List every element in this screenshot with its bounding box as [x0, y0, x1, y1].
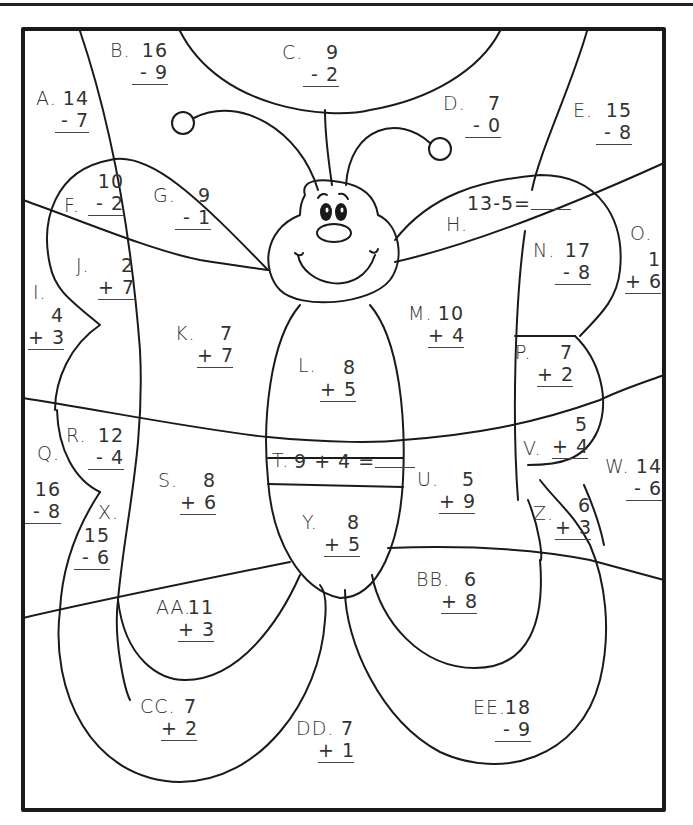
problem-R: 12 - 4: [88, 424, 124, 470]
problem-EE: 18 - 9: [495, 696, 531, 742]
problem-W: 14 - 6: [626, 455, 662, 501]
problem-X-label: X.: [98, 502, 119, 523]
butterfly-drawing: [0, 0, 693, 825]
problem-P: 7 + 2: [537, 341, 573, 387]
problem-P-label: P.: [515, 342, 532, 363]
problem-Y: 8 + 5: [324, 511, 360, 557]
problem-AA: 11 + 3: [178, 596, 214, 642]
problem-A-label: A.: [36, 88, 57, 109]
problem-E-label: E.: [573, 100, 593, 121]
problem-J-label: J.: [76, 255, 90, 276]
worksheet: A. 14 - 7 B. 16 - 9 C. 9 - 2 D. 7 - 0 E.…: [0, 0, 693, 825]
problem-V-label: V.: [523, 438, 542, 459]
problem-U: 5 + 9: [439, 468, 475, 514]
problem-G: 9 - 1: [175, 184, 211, 230]
problem-F: 10 - 2: [88, 170, 124, 216]
problem-E: 15 - 8: [596, 99, 632, 145]
problem-C-label: C.: [282, 42, 303, 63]
problem-U-label: U.: [417, 469, 439, 490]
problem-O-label: O.: [630, 223, 652, 244]
problem-F-label: F.: [64, 195, 80, 216]
problem-Q-label: Q.: [37, 443, 60, 464]
problem-Q: 16 - 8: [25, 478, 61, 524]
problem-K: 7 + 7: [197, 322, 233, 368]
problem-K-label: K.: [175, 323, 196, 344]
problem-CC: 7 + 2: [161, 695, 197, 741]
problem-I-label: I.: [33, 282, 47, 303]
problem-Y-label: Y.: [302, 512, 318, 533]
problem-B-label: B.: [110, 40, 130, 61]
problem-X: 15 - 6: [74, 524, 110, 570]
problem-I: 4 + 3: [28, 304, 64, 350]
problem-V: 5 + 4: [552, 413, 588, 459]
problem-R-label: R.: [66, 425, 87, 446]
problem-T: 9 + 4 =: [294, 450, 415, 472]
problem-N: 17 - 8: [555, 239, 591, 285]
problem-D: 7 - 0: [465, 92, 501, 138]
problem-BB: 6 + 8: [441, 568, 477, 614]
problem-M: 10 + 4: [428, 302, 464, 348]
problem-G-label: G.: [153, 185, 176, 206]
problem-T-label: T.: [272, 450, 289, 471]
problem-DD: 7 + 1: [318, 717, 354, 763]
problem-L: 8 + 5: [320, 356, 356, 402]
problem-L-label: L.: [298, 355, 317, 376]
answer-blank-T[interactable]: [375, 452, 415, 468]
problem-H: 13-5=: [467, 192, 571, 214]
problem-H-label: H.: [446, 214, 468, 235]
problem-A: 14 - 7: [55, 87, 89, 133]
problem-J: 2 + 7: [98, 254, 134, 300]
problem-S-label: S.: [158, 470, 178, 491]
problem-B: 16 - 9: [132, 39, 168, 85]
problem-N-label: N.: [533, 240, 555, 261]
answer-blank-H[interactable]: [531, 194, 571, 210]
problem-Z-label: Z.: [533, 503, 554, 524]
problem-D-label: D.: [443, 93, 466, 114]
problem-Z: 6 + 3: [555, 494, 591, 540]
problem-S: 8 + 6: [180, 469, 216, 515]
problem-C: 9 - 2: [303, 41, 339, 87]
problem-O: 1 + 6: [625, 248, 661, 294]
